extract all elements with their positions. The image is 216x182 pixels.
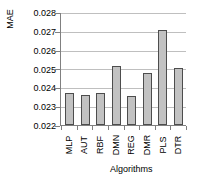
bar-slot: [155, 13, 171, 125]
x-label-slot: DTR: [170, 131, 186, 161]
y-axis-tick-label: 0.027: [20, 27, 56, 36]
y-axis-tick-label: 0.028: [20, 9, 56, 18]
y-axis-tick-labels: 0.0220.0230.0240.0250.0260.0270.028: [20, 13, 56, 126]
x-label-slot: AUT: [77, 131, 93, 161]
bar-slot: [93, 13, 109, 125]
x-axis-tick-label-pls: PLS: [158, 136, 168, 153]
x-axis-tick-label-reg: REG: [126, 135, 136, 155]
x-axis-tick-mark: [155, 126, 156, 130]
bar-dmr[interactable]: [143, 73, 152, 125]
x-axis-tick-mark: [108, 126, 109, 130]
y-axis-tick-label: 0.026: [20, 46, 56, 55]
bar-slot: [171, 13, 187, 125]
x-axis-tick-label-mlp: MLP: [64, 136, 74, 155]
y-axis-tick-mark: [55, 126, 60, 127]
bar-slot: [62, 13, 78, 125]
bar-slot: [109, 13, 125, 125]
x-axis-tick-marks: [61, 126, 186, 130]
x-axis-tick-label-dtr: DTR: [173, 136, 183, 155]
bar-pls[interactable]: [158, 30, 167, 125]
x-axis-tick-label-aut: AUT: [79, 136, 89, 154]
x-axis-tick-label-rbf: RBF: [95, 136, 105, 154]
bar-dtr[interactable]: [174, 68, 183, 125]
bar-slot: [140, 13, 156, 125]
x-axis-tick-mark: [139, 126, 140, 130]
x-label-slot: PLS: [155, 131, 171, 161]
x-label-slot: MLP: [61, 131, 77, 161]
x-label-slot: RBF: [92, 131, 108, 161]
x-axis-tick-mark: [77, 126, 78, 130]
bar-mlp[interactable]: [65, 93, 74, 125]
bar-rbf[interactable]: [96, 93, 105, 125]
x-axis-tick-mark: [186, 126, 187, 130]
bar-slot: [124, 13, 140, 125]
bar-series: [62, 13, 186, 125]
x-axis-tick-mark: [170, 126, 171, 130]
x-label-slot: DMN: [108, 131, 124, 161]
x-axis-title: Algorithms: [110, 164, 210, 174]
plot-area: [60, 13, 186, 126]
y-axis-tick-label: 0.023: [20, 103, 56, 112]
bar-reg[interactable]: [127, 96, 136, 125]
x-axis-tick-mark: [92, 126, 93, 130]
y-axis-title: MAE: [5, 0, 15, 39]
bar-chart: MAE 0.0220.0230.0240.0250.0260.0270.028 …: [0, 0, 216, 182]
x-axis-tick-label-dmr: DMR: [142, 135, 152, 156]
x-axis-tick-mark: [61, 126, 62, 130]
x-label-slot: REG: [124, 131, 140, 161]
x-axis-tick-label-dmn: DMN: [111, 135, 121, 156]
bar-aut[interactable]: [81, 95, 90, 125]
x-axis-tick-labels: MLPAUTRBFDMNREGDMRPLSDTR: [61, 131, 186, 161]
bar-dmn[interactable]: [112, 66, 121, 125]
bar-slot: [78, 13, 94, 125]
y-axis-tick-label: 0.022: [20, 122, 56, 131]
y-axis-tick-label: 0.025: [20, 65, 56, 74]
x-label-slot: DMR: [139, 131, 155, 161]
y-axis-tick-label: 0.024: [20, 84, 56, 93]
x-axis-tick-mark: [124, 126, 125, 130]
